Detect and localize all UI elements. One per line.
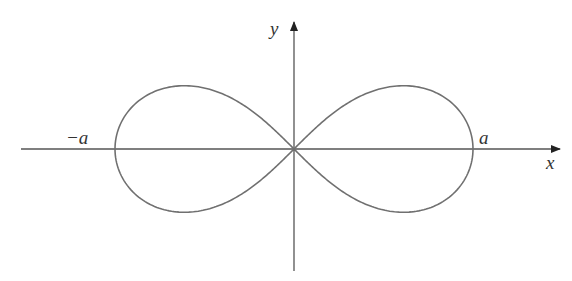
y-axis-label: y — [270, 19, 278, 38]
x-axis-label: x — [546, 153, 554, 172]
pos-a-label: a — [479, 128, 489, 147]
neg-a-label: −a — [66, 128, 88, 147]
